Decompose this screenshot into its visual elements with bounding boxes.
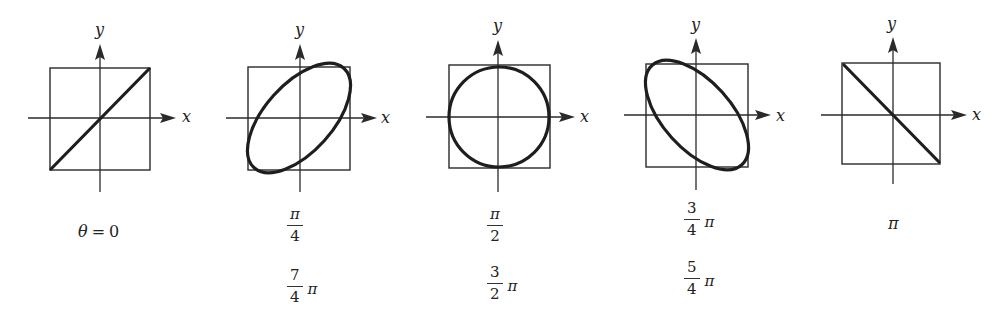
numerator: 5 [684, 260, 700, 279]
label-3pi-over-2: 3 2 π [487, 265, 517, 302]
x-axis-label: x [182, 107, 191, 126]
numerator: 3 [684, 201, 700, 220]
fraction: 7 4 [287, 268, 303, 305]
pi-suffix: π [308, 280, 318, 298]
fraction: 3 2 [487, 265, 503, 302]
denominator: 2 [487, 226, 503, 244]
fraction: π 2 [487, 207, 503, 244]
panel-theta-pi-over-4: x y [226, 20, 390, 192]
label-3pi-over-4: 3 4 π [684, 201, 714, 238]
pi-suffix: π [705, 213, 715, 231]
panel-theta-pi: x y [821, 14, 981, 184]
theta-symbol: θ [78, 222, 88, 241]
panel-theta-pi-over-2: x y [426, 16, 589, 192]
y-axis-label: y [94, 20, 105, 39]
fraction: 5 4 [684, 260, 700, 297]
x-axis-label: x [776, 106, 785, 125]
pi-suffix: π [508, 277, 518, 295]
denominator: 4 [684, 220, 700, 238]
y-axis-label: y [886, 14, 897, 33]
y-axis-label: y [294, 20, 305, 39]
denominator: 2 [487, 284, 503, 302]
x-axis-label: x [972, 105, 981, 124]
label-7pi-over-4: 7 4 π [287, 268, 317, 305]
denominator: 4 [684, 279, 700, 297]
numerator: π [487, 207, 503, 226]
numerator: 3 [487, 265, 503, 284]
y-axis-label: y [492, 16, 503, 35]
label-pi: π [888, 214, 899, 233]
pi-symbol: π [888, 214, 899, 233]
x-axis-label: x [381, 108, 390, 127]
lissajous-line-decreasing [844, 65, 939, 162]
label-theta-0: θ = 0 [78, 222, 119, 241]
denominator: 4 [287, 287, 303, 305]
panel-theta-0: x y [28, 20, 191, 192]
label-pi-over-4: π 4 [287, 207, 303, 244]
denominator: 4 [287, 226, 303, 244]
label-pi-over-2: π 2 [487, 207, 503, 244]
pi-suffix: π [705, 272, 715, 290]
x-axis-label: x [580, 107, 589, 126]
y-axis-label: y [690, 15, 701, 34]
equals-sign: = [92, 222, 105, 241]
fraction: π 4 [287, 207, 303, 244]
numerator: 7 [287, 268, 303, 287]
label-5pi-over-4: 5 4 π [684, 260, 714, 297]
theta-value: 0 [109, 222, 119, 241]
numerator: π [287, 207, 303, 226]
fraction: 3 4 [684, 201, 700, 238]
panel-theta-3pi-over-4: x y [624, 15, 785, 190]
